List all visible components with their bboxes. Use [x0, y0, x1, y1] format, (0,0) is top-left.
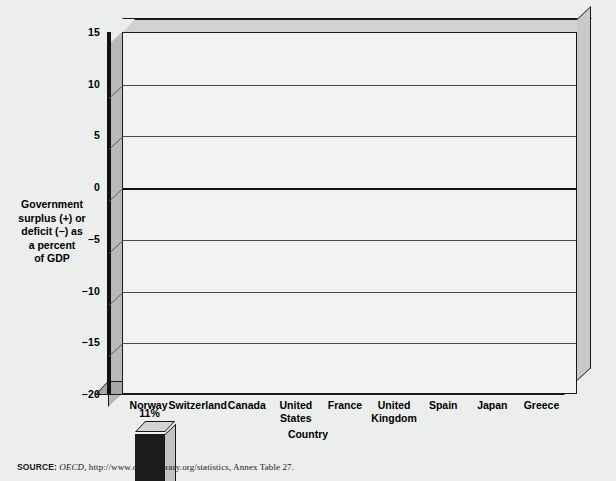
source-organization: OECD	[59, 462, 84, 472]
y-tick--10: −10	[82, 285, 100, 297]
y-tick-0: 0	[94, 181, 100, 193]
y-axis-title-line: deficit (−) as	[4, 225, 100, 239]
y-axis-title-line: of GDP	[4, 252, 100, 266]
y-axis-title: Governmentsurplus (+) ordeficit (−) asa …	[4, 198, 100, 266]
y-tick-10: 10	[88, 78, 100, 90]
y-axis-spine	[107, 32, 111, 395]
y-tick--15: −15	[82, 336, 100, 348]
source-kicker: SOURCE:	[17, 462, 57, 472]
y-axis-title-line: a percent	[4, 239, 100, 253]
plot-area: 11%0%−2%−3%−4%−5%−6%−8%−13%	[122, 32, 577, 394]
bar-series: 11%0%−2%−3%−4%−5%−6%−8%−13%	[123, 33, 576, 393]
y-axis-title-line: Government	[4, 198, 100, 212]
x-axis-title: Country	[0, 428, 616, 440]
chart-box-top-face	[122, 19, 590, 33]
source-note: SOURCE: OECD, http://www.oecd-ilibrary.o…	[17, 462, 294, 472]
y-tick-15: 15	[88, 26, 100, 38]
figure-root: 11%0%−2%−3%−4%−5%−6%−8%−13% 151050−5−10−…	[0, 0, 616, 481]
chart-box-right-wall	[577, 6, 591, 381]
source-citation: , http://www.oecd-ilibrary.org/statistic…	[84, 462, 294, 472]
y-axis-title-line: surplus (+) or	[4, 212, 100, 226]
x-label-greece: Greece	[503, 399, 579, 412]
bar-front-face	[135, 434, 165, 481]
y-tick-5: 5	[94, 129, 100, 141]
